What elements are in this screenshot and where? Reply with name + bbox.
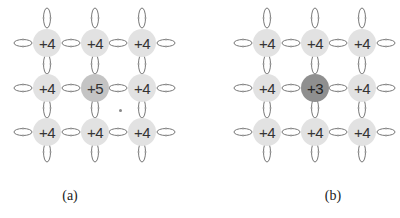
- lattice-node: +3: [301, 74, 329, 102]
- lattice-node: +4: [348, 118, 376, 146]
- panel-caption: (b): [325, 188, 341, 204]
- lattice-node: +4: [81, 29, 109, 57]
- lattice-node: +4: [253, 29, 281, 57]
- lattice-node: +5: [81, 74, 109, 102]
- horizontal-link-icon: [13, 34, 33, 52]
- lattice-node: +4: [128, 118, 156, 146]
- panel-b: +4+4+4+4+3+4+4+4+4(b): [220, 0, 400, 218]
- horizontal-link-icon: [281, 34, 301, 52]
- horizontal-link-icon: [61, 34, 81, 52]
- horizontal-link-icon: [61, 79, 81, 97]
- lattice-node: +4: [33, 118, 61, 146]
- horizontal-link-icon: [328, 34, 348, 52]
- lattice-node: +4: [253, 74, 281, 102]
- lattice-node: +4: [33, 74, 61, 102]
- defect-dot: [119, 109, 122, 112]
- horizontal-link-icon: [233, 34, 253, 52]
- horizontal-link-icon: [108, 123, 128, 141]
- lattice-node: +4: [301, 29, 329, 57]
- lattice-node: +4: [128, 29, 156, 57]
- lattice-node: +4: [81, 118, 109, 146]
- horizontal-link-icon: [233, 123, 253, 141]
- horizontal-link-icon: [156, 123, 176, 141]
- horizontal-link-icon: [156, 34, 176, 52]
- horizontal-link-icon: [61, 123, 81, 141]
- horizontal-link-icon: [108, 79, 128, 97]
- horizontal-link-icon: [328, 123, 348, 141]
- horizontal-link-icon: [13, 123, 33, 141]
- horizontal-link-icon: [376, 123, 396, 141]
- lattice-node: +4: [128, 74, 156, 102]
- horizontal-link-icon: [281, 123, 301, 141]
- horizontal-link-icon: [328, 79, 348, 97]
- horizontal-link-icon: [108, 34, 128, 52]
- horizontal-link-icon: [233, 79, 253, 97]
- horizontal-link-icon: [376, 34, 396, 52]
- panel-a: +4+4+4+4+5+4+4+4+4(a): [0, 0, 200, 218]
- lattice-node: +4: [301, 118, 329, 146]
- horizontal-link-icon: [376, 79, 396, 97]
- lattice-node: +4: [348, 29, 376, 57]
- lattice-node: +4: [348, 74, 376, 102]
- panel-caption: (a): [62, 188, 78, 204]
- horizontal-link-icon: [13, 79, 33, 97]
- lattice-node: +4: [253, 118, 281, 146]
- lattice-node: +4: [33, 29, 61, 57]
- horizontal-link-icon: [281, 79, 301, 97]
- horizontal-link-icon: [156, 79, 176, 97]
